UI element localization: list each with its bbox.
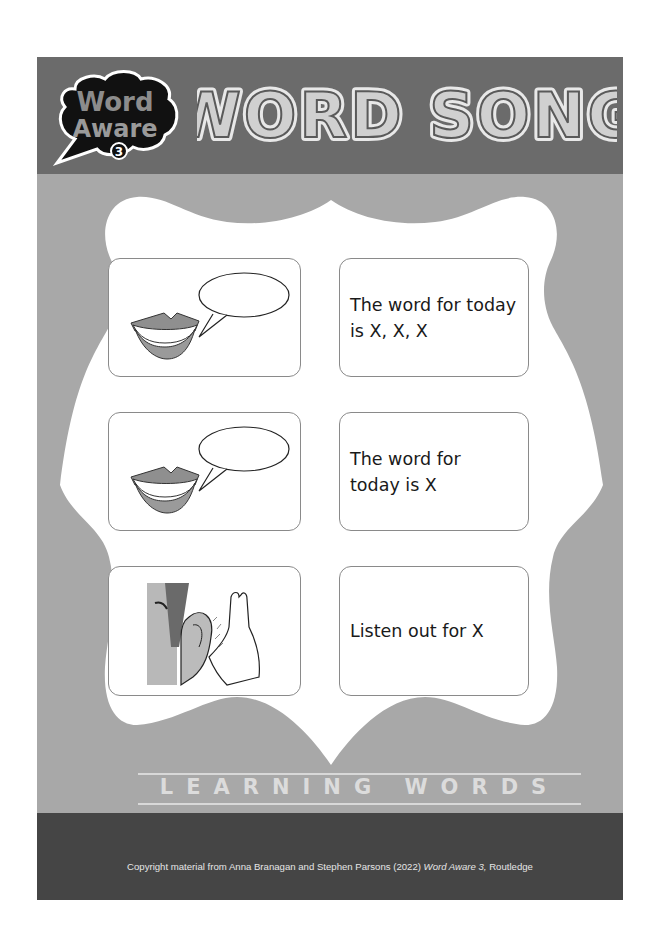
- section-rule-bottom: [138, 803, 581, 805]
- copyright-prefix: Copyright material from Anna Branagan an…: [127, 861, 424, 872]
- phrase-text: Listen out for X: [350, 618, 518, 644]
- phrase-card-3: Listen out for X: [339, 566, 529, 696]
- footer-bar: Copyright material from Anna Branagan an…: [37, 813, 623, 900]
- phrase-text: The word for today is X, X, X: [350, 292, 518, 344]
- illustration-card-1: [108, 258, 301, 377]
- book-title: Word Aware 3,: [424, 861, 487, 872]
- speaking-lips-speech-bubble-icon: [109, 259, 299, 375]
- section-label: LEARNING WORDS: [138, 775, 581, 799]
- illustration-card-3: [108, 566, 301, 696]
- worksheet-page: Word Aware 3 WORD SONG WORD SONG The wor…: [37, 57, 623, 900]
- illustration-card-2: [108, 412, 301, 531]
- hand-cupped-to-ear-listening-icon: [109, 567, 299, 694]
- phrase-card-1: The word for today is X, X, X: [339, 258, 529, 377]
- phrase-card-2: The word for today is X: [339, 412, 529, 531]
- phrase-text: The word for today is X: [350, 446, 480, 498]
- copyright-notice: Copyright material from Anna Branagan an…: [37, 861, 623, 872]
- publisher: Routledge: [487, 861, 533, 872]
- speaking-lips-speech-bubble-icon: [109, 413, 299, 529]
